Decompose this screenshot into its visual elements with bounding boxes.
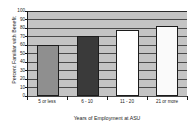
x-axis-title: Years of Employment at ASU: [27, 115, 187, 121]
bar-chart: Percent Familiar with Benefit 0102030405…: [0, 0, 191, 128]
bar[interactable]: [37, 45, 59, 96]
bar-slot: [108, 11, 148, 96]
x-axis-tick-label: 5 or less: [27, 100, 67, 109]
x-axis-tick-labels: 5 or less6 - 1011 - 2021 or more: [27, 100, 187, 109]
bar-slot: [147, 11, 187, 96]
y-axis-tick-label: 100: [17, 9, 25, 14]
bar-series: [28, 11, 187, 96]
bar[interactable]: [77, 36, 99, 96]
x-axis-tick-label: 6 - 10: [67, 100, 107, 109]
x-axis-tick-label: 11 - 20: [107, 100, 147, 109]
bar[interactable]: [116, 30, 138, 96]
x-axis-tick-label: 21 or more: [147, 100, 187, 109]
y-axis-tick-labels: 0102030405060708090100: [12, 11, 25, 96]
x-axis-tick-mark: [187, 96, 188, 100]
bar[interactable]: [156, 26, 178, 96]
bar-slot: [68, 11, 108, 96]
plot-area: [27, 11, 187, 97]
bar-slot: [28, 11, 68, 96]
